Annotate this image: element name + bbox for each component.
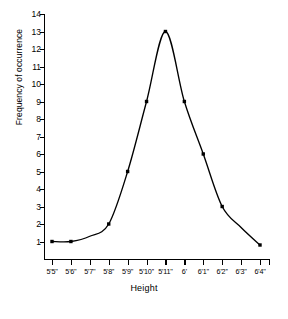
x-axis-title: Height (0, 283, 288, 293)
data-curve (44, 14, 270, 259)
data-point-markers (50, 30, 261, 247)
y-tick-label-6: 6 (36, 150, 41, 159)
x-tick-0 (52, 259, 53, 265)
y-tick-label-10: 10 (32, 80, 41, 89)
data-point-7 (183, 100, 186, 103)
y-axis-title: Frequency of occurrence (14, 0, 24, 162)
x-tick-label-3: 5'8'' (103, 268, 114, 275)
data-point-0 (50, 240, 53, 243)
x-tick-10 (241, 259, 242, 265)
data-point-6 (164, 30, 167, 33)
data-point-3 (107, 222, 110, 225)
x-tick-3 (109, 259, 110, 265)
x-tick-label-8: 6'1'' (198, 268, 209, 275)
x-tick-label-7: 6' (182, 268, 187, 275)
y-tick-label-8: 8 (36, 115, 41, 124)
line-series-path (52, 32, 260, 246)
x-tick-label-11: 6'4'' (254, 268, 265, 275)
x-tick-label-5: 5'10'' (139, 268, 154, 275)
y-tick-label-2: 2 (36, 220, 41, 229)
chart-figure: Frequency of occurrence 1234567891011121… (0, 0, 288, 319)
x-tick-9 (222, 259, 223, 265)
y-tick-label-3: 3 (36, 202, 41, 211)
x-axis-line (44, 259, 270, 260)
x-tick-1 (71, 259, 72, 265)
y-tick-label-7: 7 (36, 132, 41, 141)
x-tick-2 (90, 259, 91, 265)
x-tick-4 (128, 259, 129, 265)
data-point-1 (69, 240, 72, 243)
y-tick-label-14: 14 (32, 10, 41, 19)
x-tick-7 (184, 259, 185, 265)
x-tick-label-1: 5'6'' (65, 268, 76, 275)
y-tick-label-1: 1 (36, 237, 41, 246)
y-tick-label-5: 5 (36, 167, 41, 176)
y-tick-label-4: 4 (36, 185, 41, 194)
y-tick-label-11: 11 (32, 62, 41, 71)
y-tick-label-12: 12 (32, 45, 41, 54)
x-tick-label-2: 5'7'' (84, 268, 95, 275)
x-tick-label-0: 5'5'' (46, 268, 57, 275)
data-point-8 (202, 152, 205, 155)
x-tick-label-9: 6'2'' (217, 268, 228, 275)
plot-area: 1234567891011121314 5'5''5'6''5'7''5'8''… (44, 14, 270, 259)
y-tick-label-13: 13 (32, 27, 41, 36)
data-point-5 (145, 100, 148, 103)
y-tick-label-9: 9 (36, 97, 41, 106)
x-tick-label-6: 5'11'' (158, 268, 172, 275)
x-tick-11 (260, 259, 261, 265)
x-tick-label-4: 5'9'' (122, 268, 133, 275)
data-point-11 (258, 243, 261, 246)
x-tick-6 (165, 259, 166, 265)
data-point-9 (220, 205, 223, 208)
x-tick-end (269, 259, 270, 265)
data-point-4 (126, 170, 129, 173)
x-tick-8 (203, 259, 204, 265)
x-tick-label-10: 6'3'' (236, 268, 247, 275)
x-tick-5 (147, 259, 148, 265)
